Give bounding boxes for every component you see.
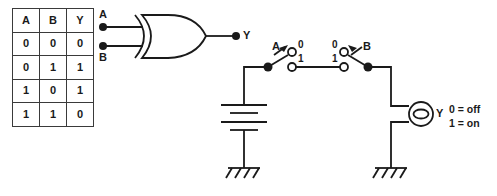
ground-right-hatch-2 (382, 168, 388, 178)
switch-a-position-0-label: 0 (298, 40, 304, 50)
ground-right-hatch-4 (400, 168, 406, 178)
switch-b-position-0-label: 0 (332, 40, 338, 50)
gate-input-a-label: A (99, 9, 107, 20)
switch-b-to-lamp-wire (368, 67, 409, 106)
switch-b-position-1-label: 1 (332, 54, 338, 64)
ground-left-hatch-2 (235, 168, 241, 178)
output-y-terminal-dot (232, 32, 240, 40)
gate-input-b-label: B (99, 52, 107, 63)
ground-left-hatch-3 (244, 168, 250, 178)
switch-a-pivot-dot (264, 63, 273, 72)
switch-a-contact-0 (288, 48, 296, 56)
ground-right-hatch-1 (373, 168, 379, 178)
switch-b-contact-0 (340, 48, 348, 56)
switch-a-label: A (272, 41, 280, 52)
legend-off: 0 = off (449, 103, 480, 116)
switch-b-pivot-dot (364, 63, 373, 72)
switch-b-label: B (363, 41, 371, 52)
switch-a-position-1-label: 1 (298, 54, 304, 64)
switch-a-contact-1 (288, 63, 296, 71)
battery-to-switch-a-wire (244, 67, 268, 105)
ground-right-hatch-3 (391, 168, 397, 178)
switch-b-contact-1 (340, 63, 348, 71)
input-a-terminal-dot (99, 23, 107, 31)
input-b-terminal-dot (99, 42, 107, 50)
lamp-y-label: Y (436, 108, 443, 119)
gate-output-y-label: Y (243, 30, 250, 41)
legend-on: 1 = on (449, 117, 480, 130)
gate-xor-arc (135, 15, 144, 58)
gate-body (142, 15, 206, 58)
diagram-canvas: A B Y 0 0 0 0 1 1 1 0 1 1 1 0 (0, 0, 497, 196)
ground-left-hatch-1 (226, 168, 232, 178)
lamp-to-ground-wire (391, 122, 409, 168)
ground-left-hatch-4 (253, 168, 259, 178)
